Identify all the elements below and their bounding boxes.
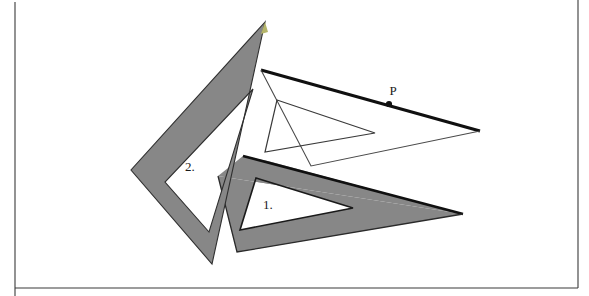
point-p-group: P — [386, 83, 397, 107]
triangle-2-label: 2. — [185, 159, 195, 174]
point-p-marker — [386, 101, 392, 107]
triangle-1-group — [218, 156, 463, 252]
figure-page: P 2. 1. — [0, 0, 589, 296]
geometry-figure: P 2. 1. — [0, 0, 589, 296]
triangle-1-label: 1. — [263, 197, 273, 212]
point-p-label: P — [389, 83, 396, 98]
triangle-2-shaded-frame — [131, 22, 265, 264]
triangle-3-group — [261, 70, 480, 166]
triangle-3-white-frame — [261, 70, 480, 166]
triangle-2-group — [131, 22, 268, 264]
